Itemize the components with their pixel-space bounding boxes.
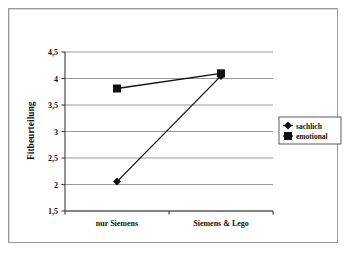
line-chart-plot: 4,5 4 3,5 3 2,5 2 1,5 Fitbeurteilung nur… [0,0,352,263]
y-tick-label-4-5: 4,5 [48,48,58,57]
y-tick-label-3-5: 3,5 [48,101,58,110]
series-emotional-line [117,73,221,88]
series-sachlich [113,72,225,186]
y-tick-label-4: 4 [54,75,58,84]
square-marker-icon [284,132,292,140]
legend-label-sachlich: sachlich [296,122,323,131]
gridlines [65,52,273,211]
y-tick-label-2-5: 2,5 [48,154,58,163]
y-tick-label-3: 3 [54,128,58,137]
square-marker-icon [217,69,225,77]
y-tick-label-2: 2 [54,181,58,190]
y-axis-title: Fitbeurteilung [26,101,36,160]
square-marker-icon [113,85,121,93]
series-sachlich-line [117,76,221,182]
y-tick-label-1-5: 1,5 [48,207,58,216]
chart-figure: 4,5 4 3,5 3 2,5 2 1,5 Fitbeurteilung nur… [0,0,352,263]
x-category-label-nur-siemens: nur Siemens [96,219,138,228]
x-category-label-siemens-lego: Siemens & Lego [193,219,249,228]
chart-legend: sachlich emotional [279,117,341,144]
legend-item-emotional[interactable]: emotional [283,132,328,141]
legend-label-emotional: emotional [296,132,328,141]
